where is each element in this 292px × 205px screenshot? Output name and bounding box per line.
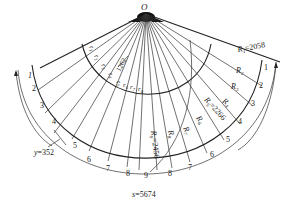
svg-text:r7: r7	[130, 83, 136, 92]
svg-text:2: 2	[259, 81, 263, 90]
svg-text:r6: r6	[123, 81, 129, 90]
svg-text:4: 4	[238, 117, 242, 126]
R3-label: R3	[230, 82, 239, 92]
svg-text:5: 5	[73, 141, 77, 150]
svg-text:r2: r2	[92, 53, 102, 62]
svg-text:1: 1	[28, 71, 32, 80]
svg-text:8: 8	[168, 169, 172, 178]
svg-text:5: 5	[226, 135, 230, 144]
svg-text:r1: r1	[87, 44, 97, 53]
svg-text:7: 7	[106, 164, 110, 173]
svg-text:6: 6	[210, 150, 214, 159]
y-dimension	[48, 130, 66, 147]
svg-text:1262: 1262	[115, 56, 129, 73]
svg-text:6: 6	[87, 155, 91, 164]
center-label: O	[141, 2, 148, 12]
inner-dimension-1262: 1262	[115, 56, 129, 73]
R6-label: R6	[193, 113, 206, 126]
R2-label: R2	[235, 66, 244, 76]
R9-label: R9=2456	[148, 129, 161, 159]
svg-text:7: 7	[188, 163, 192, 172]
svg-text:3: 3	[40, 101, 44, 110]
svg-text:3: 3	[251, 99, 255, 108]
s-dimension-label: s=5674	[132, 190, 156, 199]
R1-label: R1=2058	[236, 40, 266, 55]
svg-text:4: 4	[52, 117, 56, 126]
y-dimension-label: y=352	[33, 148, 54, 157]
svg-text:8: 8	[126, 169, 130, 178]
R4-label: R4	[219, 96, 232, 109]
svg-text:2: 2	[32, 84, 36, 93]
svg-text:1: 1	[264, 63, 268, 72]
fan-sector-diagram: O R1=2058 R2 R3 R4 R5=2266 R6 R7 R8 R9=2…	[0, 0, 292, 205]
svg-text:9: 9	[144, 171, 148, 180]
svg-text:r3: r3	[99, 62, 109, 71]
